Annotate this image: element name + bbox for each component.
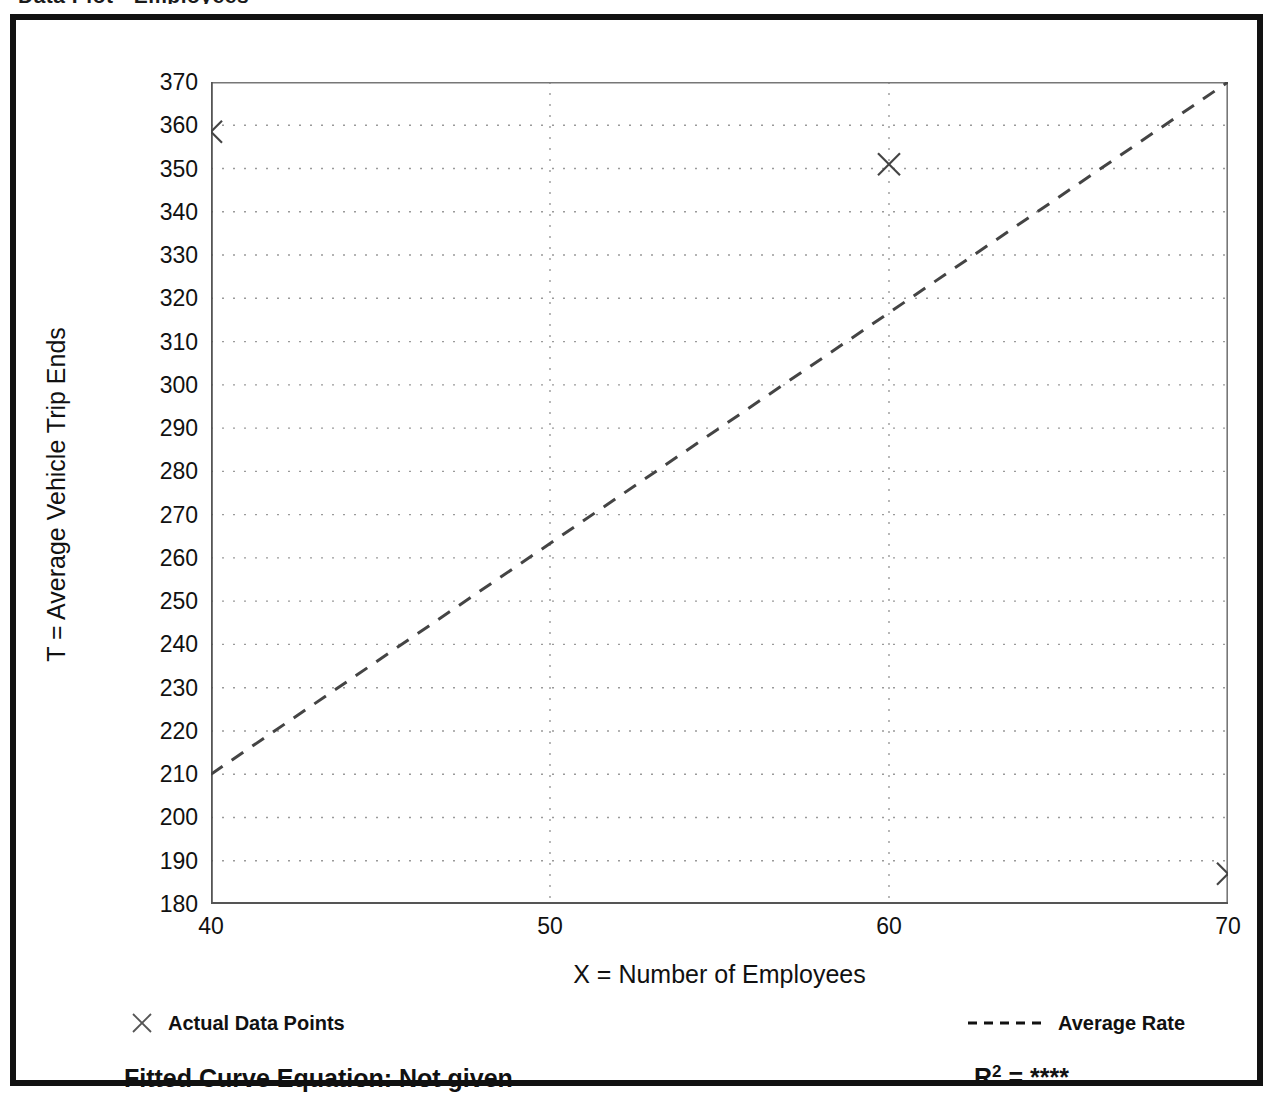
legend-item-average-rate: Average Rate — [1058, 1012, 1185, 1035]
x-axis-title: X = Number of Employees — [211, 960, 1228, 989]
y-tick-label: 350 — [128, 157, 198, 180]
y-tick-label: 190 — [128, 849, 198, 872]
y-tick-label: 250 — [128, 590, 198, 613]
x-cross-marker-icon — [129, 1010, 155, 1036]
r-squared-value: R2 = **** — [974, 1062, 1069, 1092]
fitted-curve-equation: Fitted Curve Equation: Not given — [124, 1064, 513, 1093]
r-squared-exponent: 2 — [992, 1062, 1001, 1081]
y-tick-label: 280 — [128, 460, 198, 483]
r-squared-stars: **** — [1030, 1063, 1069, 1091]
r-squared-equals: = — [1002, 1063, 1031, 1091]
chart-page: Data Plot - Employees 180190200210220230… — [0, 0, 1281, 1100]
y-tick-label: 200 — [128, 806, 198, 829]
y-tick-label: 360 — [128, 114, 198, 137]
dashed-line-swatch-icon — [968, 1020, 1044, 1026]
y-tick-label: 260 — [128, 546, 198, 569]
y-tick-label: 290 — [128, 417, 198, 440]
plot-area — [211, 82, 1228, 904]
y-tick-label: 300 — [128, 373, 198, 396]
y-tick-label: 220 — [128, 719, 198, 742]
y-tick-label: 240 — [128, 633, 198, 656]
x-tick-label: 60 — [876, 915, 902, 938]
x-axis-tick-labels: 40506070 — [211, 915, 1228, 949]
y-tick-label: 180 — [128, 893, 198, 916]
x-tick-label: 70 — [1215, 915, 1241, 938]
y-tick-label: 340 — [128, 200, 198, 223]
y-tick-label: 330 — [128, 244, 198, 267]
x-tick-label: 40 — [198, 915, 224, 938]
y-tick-label: 230 — [128, 676, 198, 699]
y-tick-label: 320 — [128, 287, 198, 310]
x-tick-label: 50 — [537, 915, 563, 938]
figure-title-remnant: Data Plot - Employees — [18, 0, 638, 4]
r-squared-symbol: R — [974, 1063, 992, 1091]
y-tick-label: 310 — [128, 330, 198, 353]
y-tick-label: 210 — [128, 763, 198, 786]
legend-item-actual-data-points: Actual Data Points — [168, 1012, 345, 1035]
y-axis-title: T = Average Vehicle Trip Ends — [42, 175, 71, 815]
y-tick-label: 370 — [128, 71, 198, 94]
y-axis-tick-labels: 1801902002102202302402502602702802903003… — [126, 82, 198, 904]
y-tick-label: 270 — [128, 503, 198, 526]
figure-frame: 1801902002102202302402502602702802903003… — [10, 14, 1263, 1086]
plot-svg — [211, 82, 1228, 904]
